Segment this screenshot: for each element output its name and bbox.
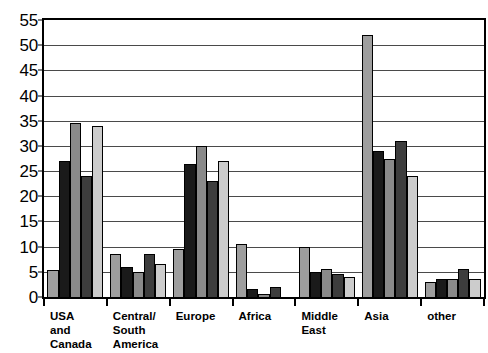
y-axis-tickmark	[38, 145, 43, 146]
bar	[469, 279, 480, 297]
bar	[299, 247, 310, 297]
bar-chart: 0510152025303540455055 USA and CanadaCen…	[0, 0, 488, 353]
gridline	[44, 171, 484, 172]
y-axis-tick-label: 55	[4, 12, 38, 29]
bar	[59, 161, 70, 297]
y-axis-tickmark	[38, 95, 43, 96]
bar	[310, 272, 321, 297]
gridline	[44, 221, 484, 222]
gridline	[44, 121, 484, 122]
bar	[425, 282, 436, 297]
x-axis-group-label: USA and Canada	[50, 309, 109, 351]
x-axis-group-label: other	[427, 309, 486, 323]
x-axis-group-label: Central/ South America	[113, 309, 172, 351]
bar	[447, 279, 458, 297]
bar	[110, 254, 121, 297]
y-axis-tick-labels: 0510152025303540455055	[0, 0, 38, 353]
y-axis-tick-label: 0	[4, 289, 38, 306]
y-axis-tick-label: 30	[4, 137, 38, 154]
plot-area	[42, 18, 486, 299]
bar	[407, 176, 418, 297]
bar	[384, 159, 395, 298]
bar	[236, 244, 247, 297]
gridline	[44, 70, 484, 71]
y-axis-tickmark	[38, 297, 43, 298]
y-axis-tickmark	[38, 70, 43, 71]
x-axis-divider	[169, 299, 171, 306]
y-axis-tick-label: 10	[4, 238, 38, 255]
bar	[121, 267, 132, 297]
bar	[332, 274, 343, 297]
x-axis-divider	[357, 299, 359, 306]
bar	[207, 181, 218, 297]
x-axis-divider	[294, 299, 296, 306]
x-axis-divider	[232, 299, 234, 306]
y-axis-tickmark	[38, 246, 43, 247]
y-axis-tickmark	[38, 45, 43, 46]
bar	[321, 269, 332, 297]
y-axis-tick-label: 20	[4, 188, 38, 205]
gridline	[44, 96, 484, 97]
bar	[458, 269, 469, 297]
bar	[362, 35, 373, 297]
bar	[270, 287, 281, 297]
gridline	[44, 146, 484, 147]
bar	[373, 151, 384, 297]
bar	[70, 123, 81, 297]
y-axis-tick-label: 35	[4, 112, 38, 129]
x-axis-group-label: Middle East	[301, 309, 360, 337]
bar	[395, 141, 406, 297]
bar	[258, 294, 269, 297]
y-axis-tick-label: 50	[4, 37, 38, 54]
bar	[144, 254, 155, 297]
y-axis-tickmark	[38, 20, 43, 21]
gridline	[44, 247, 484, 248]
x-axis-divider	[420, 299, 422, 306]
x-axis-group-label: Europe	[176, 309, 235, 323]
y-axis-tickmark	[38, 171, 43, 172]
gridline	[44, 45, 484, 46]
x-axis-divider	[106, 299, 108, 306]
y-axis-tick-label: 15	[4, 213, 38, 230]
bar	[155, 264, 166, 297]
bar	[218, 161, 229, 297]
bar	[196, 146, 207, 297]
x-axis-group-label: Africa	[239, 309, 298, 323]
gridline	[44, 196, 484, 197]
bar	[133, 272, 144, 297]
y-axis-tickmark	[38, 196, 43, 197]
y-axis-tick-label: 25	[4, 163, 38, 180]
bar	[81, 176, 92, 297]
y-axis-tickmark	[38, 120, 43, 121]
y-axis-tick-label: 40	[4, 87, 38, 104]
y-axis-tick-label: 5	[4, 263, 38, 280]
y-axis-tickmark	[38, 271, 43, 272]
bar	[247, 289, 258, 297]
x-axis-divider	[43, 299, 45, 306]
bar	[173, 249, 184, 297]
y-axis-tickmark	[38, 221, 43, 222]
bar	[184, 164, 195, 297]
y-axis-tick-label: 45	[4, 62, 38, 79]
bar	[92, 126, 103, 297]
bar	[436, 279, 447, 297]
bar	[344, 277, 355, 297]
bar	[47, 270, 58, 297]
x-axis-divider	[483, 299, 485, 306]
x-axis-group-label: Asia	[364, 309, 423, 323]
